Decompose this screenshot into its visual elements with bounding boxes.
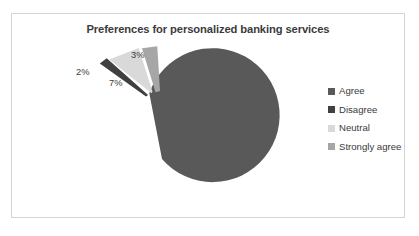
pie-slice-agree[interactable] [149,48,279,182]
legend-swatch-icon [328,143,335,150]
legend-item-disagree[interactable]: Disagree [328,101,406,120]
chart-frame: Preferences for personalized banking ser… [11,13,405,218]
data-label-strongly-agree: 3% [131,50,144,60]
legend-item-agree[interactable]: Agree [328,82,406,101]
legend-swatch-icon [328,106,335,113]
legend-item-strongly-agree[interactable]: Strongly agree [328,138,406,157]
legend-label: Neutral [339,123,370,133]
legend-label: Disagree [339,105,377,115]
data-label-neutral: 7% [109,78,122,88]
legend-swatch-icon [328,125,335,132]
legend-swatch-icon [328,88,335,95]
data-label-disagree: 2% [76,67,89,77]
pie-plot-area: 2% 7% 3% 88% Agree Disagree Neutral Stro… [12,14,406,219]
data-label-agree: 88% [170,188,189,198]
pie-chart [56,36,236,201]
chart-legend: Agree Disagree Neutral Strongly agree [328,82,406,156]
legend-label: Agree [339,86,365,96]
legend-item-neutral[interactable]: Neutral [328,119,406,138]
legend-label: Strongly agree [339,142,401,152]
